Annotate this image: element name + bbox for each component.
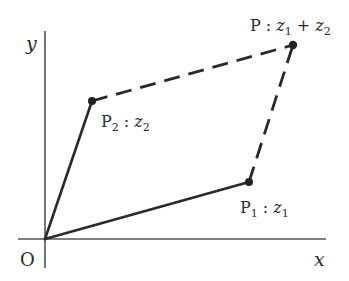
dashed-side-p2-p xyxy=(92,45,293,101)
label-p-op: + xyxy=(292,16,316,35)
label-p-name: P xyxy=(250,16,261,35)
label-p1-sep: : xyxy=(258,198,274,217)
vector-z1 xyxy=(45,182,249,239)
label-p: P : z1 + z2 xyxy=(250,16,331,38)
origin-label: O xyxy=(20,249,35,270)
label-p2-name: P xyxy=(101,112,112,131)
label-p2: P2 : z2 xyxy=(101,112,150,134)
label-p-var1-sub: 1 xyxy=(285,25,292,38)
label-p-sep: : xyxy=(261,16,277,35)
vector-z2 xyxy=(45,101,92,239)
label-p1-var-sub: 1 xyxy=(282,207,289,220)
point-p xyxy=(289,41,297,49)
label-p1-sub: 1 xyxy=(251,207,258,220)
label-p2-var-sub: 2 xyxy=(143,121,150,134)
point-p1 xyxy=(245,178,253,186)
label-p-var2-sub: 2 xyxy=(324,25,331,38)
label-p1: P1 : z1 xyxy=(240,198,289,220)
parallelogram-diagram: y x O P2 : z2 P1 : z1 P : z1 + z2 xyxy=(0,0,349,281)
label-p2-sub: 2 xyxy=(112,121,119,134)
y-axis-label: y xyxy=(25,32,37,54)
dashed-side-p1-p xyxy=(249,45,293,182)
point-p2 xyxy=(88,97,96,105)
label-p1-name: P xyxy=(240,198,251,217)
x-axis-label: x xyxy=(314,248,325,270)
diagram-svg: y x O P2 : z2 P1 : z1 P : z1 + z2 xyxy=(0,0,349,281)
label-p2-sep: : xyxy=(119,112,135,131)
